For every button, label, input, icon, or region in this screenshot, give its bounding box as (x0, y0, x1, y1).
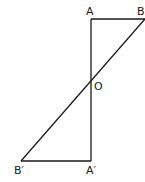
label-a: A (86, 5, 94, 18)
label-o: O (94, 80, 103, 93)
label-b-prime: B′ (14, 164, 25, 177)
diagram-canvas: A B O B′ A′ (0, 0, 145, 182)
label-b: B (137, 5, 145, 18)
segment-b-b-prime (21, 19, 145, 161)
label-a-prime: A′ (86, 164, 97, 177)
